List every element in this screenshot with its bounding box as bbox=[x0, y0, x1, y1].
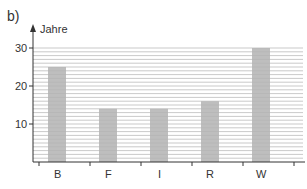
x-label-w: W bbox=[256, 168, 266, 180]
bar-i bbox=[150, 109, 168, 162]
bar-w bbox=[252, 48, 270, 162]
x-label-i: I bbox=[158, 168, 161, 180]
x-label-r: R bbox=[206, 168, 214, 180]
x-label-b: B bbox=[54, 168, 61, 180]
bar-chart bbox=[0, 0, 307, 189]
bar-f bbox=[99, 109, 117, 162]
x-label-f: F bbox=[105, 168, 112, 180]
bar-r bbox=[201, 101, 219, 162]
bar-b bbox=[48, 67, 66, 162]
